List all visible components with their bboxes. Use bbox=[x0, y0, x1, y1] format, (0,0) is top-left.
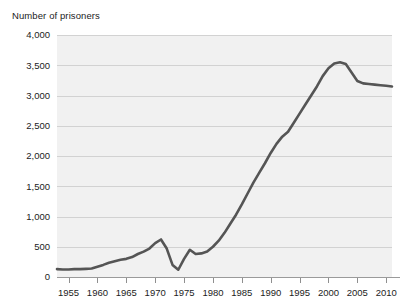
x-axis-tick-marks bbox=[70, 278, 387, 283]
chart-container: Number of prisoners 05001,0001,5002,0002… bbox=[0, 0, 416, 308]
y-tick-label-500: 500 bbox=[34, 241, 50, 252]
y-tick-label-1000: 1,000 bbox=[26, 211, 50, 222]
x-tick-label-1955: 1955 bbox=[58, 287, 79, 298]
x-tick-label-1970: 1970 bbox=[145, 287, 166, 298]
x-tick-label-2010: 2010 bbox=[376, 287, 397, 298]
x-tick-label-1975: 1975 bbox=[173, 287, 194, 298]
y-axis-tick-labels: 05001,0001,5002,0002,5003,0003,5004,000 bbox=[26, 29, 50, 282]
x-tick-label-2005: 2005 bbox=[347, 287, 368, 298]
y-tick-label-2500: 2,500 bbox=[26, 120, 50, 131]
y-tick-label-3000: 3,000 bbox=[26, 90, 50, 101]
y-tick-label-2000: 2,000 bbox=[26, 150, 50, 161]
y-tick-label-3500: 3,500 bbox=[26, 60, 50, 71]
y-tick-label-4000: 4,000 bbox=[26, 29, 50, 40]
x-tick-label-1960: 1960 bbox=[87, 287, 108, 298]
x-tick-label-1985: 1985 bbox=[231, 287, 252, 298]
line-chart-plot: 05001,0001,5002,0002,5003,0003,5004,000 … bbox=[0, 0, 416, 308]
x-axis-tick-labels: 1955196019651970197519801985199019952000… bbox=[58, 287, 397, 298]
x-tick-label-1965: 1965 bbox=[116, 287, 137, 298]
x-tick-label-2000: 2000 bbox=[318, 287, 339, 298]
y-tick-label-1500: 1,500 bbox=[26, 181, 50, 192]
x-tick-label-1995: 1995 bbox=[289, 287, 310, 298]
x-tick-label-1990: 1990 bbox=[260, 287, 281, 298]
y-tick-label-0: 0 bbox=[45, 271, 50, 282]
x-tick-label-1980: 1980 bbox=[202, 287, 223, 298]
